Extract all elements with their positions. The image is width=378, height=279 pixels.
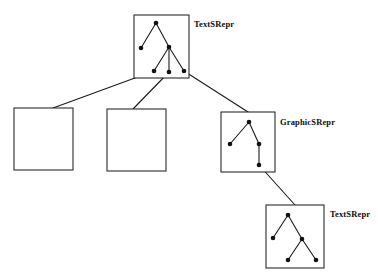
tree-node-dot — [167, 45, 172, 50]
box-label-root-box: TextSRepr — [194, 19, 234, 29]
tree-node-dot — [228, 142, 233, 147]
box-empty-box-middle — [107, 109, 166, 171]
tree-node-dot — [152, 69, 157, 74]
node-group-root-box — [134, 15, 189, 78]
tree-node-dot — [257, 142, 262, 147]
cropped-page-text — [4, 0, 204, 3]
node-group-empty-box-middle — [107, 109, 166, 171]
tree-node-dot — [167, 70, 172, 75]
tree-node-dot — [286, 213, 291, 218]
tree-node-dot — [182, 69, 187, 74]
box-empty-box-left — [14, 108, 73, 170]
structured-representation-tree-diagram — [0, 0, 378, 279]
node-group-empty-box-left — [14, 108, 73, 170]
box-label-leaf-text-box: TextSRepr — [330, 209, 370, 219]
tree-node-dot — [154, 21, 159, 26]
tree-node-dot — [300, 237, 305, 242]
tree-node-dot — [257, 163, 262, 168]
tree-node-dot — [271, 236, 276, 241]
node-group-graphic-box — [221, 112, 275, 172]
tree-node-dot — [247, 120, 252, 125]
node-group-leaf-text-box — [266, 205, 324, 268]
tree-node-dot — [286, 258, 291, 263]
tree-node-dot — [139, 46, 144, 51]
box-label-graphic-box: GraphicSRepr — [280, 117, 335, 127]
tree-node-dot — [314, 258, 319, 263]
diagram-canvas: TextSReprGraphicSReprTextSRepr — [0, 0, 378, 279]
connector-root-to-graphic-box — [184, 71, 248, 112]
